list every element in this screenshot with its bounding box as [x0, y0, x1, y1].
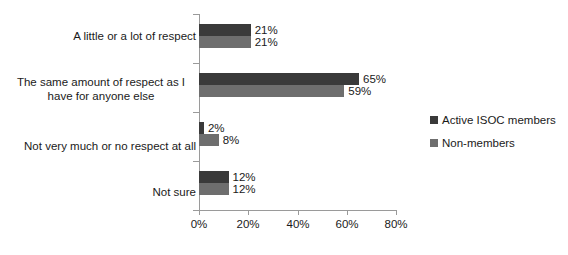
- legend-item-non-members: Non-members: [430, 136, 556, 150]
- value-tick-label: 0%: [179, 218, 219, 230]
- category-tick: [193, 112, 199, 113]
- value-tick-label: 40%: [278, 218, 318, 230]
- value-tick-label: 20%: [228, 218, 268, 230]
- bar-0-3: [199, 171, 229, 183]
- bar-value-label-1-1: 59%: [348, 85, 371, 97]
- bar-chart: A little or a lot of respect The same am…: [0, 0, 568, 255]
- value-tick: [347, 211, 348, 215]
- bar-value-label-1-0: 21%: [255, 36, 278, 48]
- value-tick: [298, 211, 299, 215]
- bar-value-label-1-2: 8%: [223, 134, 240, 146]
- bar-value-label-0-1: 65%: [363, 73, 386, 85]
- bar-1-1: [199, 85, 344, 97]
- value-tick: [396, 211, 397, 215]
- bar-value-label-0-3: 12%: [233, 171, 256, 183]
- legend-swatch-icon: [430, 139, 438, 147]
- category-label-3: Not sure: [6, 185, 196, 199]
- bar-0-2: [199, 122, 204, 134]
- legend-label: Active ISOC members: [442, 113, 556, 127]
- chart-legend: Active ISOC members Non-members: [430, 113, 556, 159]
- category-label-1: The same amount of respect as I have for…: [6, 75, 196, 103]
- value-tick-label: 60%: [327, 218, 367, 230]
- bar-1-0: [199, 36, 251, 48]
- bar-1-3: [199, 183, 229, 195]
- legend-item-active-isoc-members: Active ISOC members: [430, 113, 556, 127]
- category-tick: [193, 63, 199, 64]
- category-tick: [193, 161, 199, 162]
- value-tick: [248, 211, 249, 215]
- category-label-0: A little or a lot of respect: [6, 29, 196, 43]
- value-tick-label: 80%: [376, 218, 416, 230]
- bar-0-0: [199, 24, 251, 36]
- bar-0-1: [199, 73, 359, 85]
- legend-label: Non-members: [442, 136, 515, 150]
- category-tick: [193, 14, 199, 15]
- bar-value-label-0-0: 21%: [255, 24, 278, 36]
- bar-value-label-1-3: 12%: [233, 183, 256, 195]
- bar-1-2: [199, 134, 219, 146]
- value-tick: [199, 211, 200, 215]
- legend-swatch-icon: [430, 116, 438, 124]
- bar-value-label-0-2: 2%: [208, 122, 225, 134]
- category-label-2: Not very much or no respect at all: [6, 139, 196, 153]
